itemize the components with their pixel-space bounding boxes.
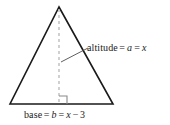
geometry-figure: altitude=a=x base=b=x−3 (0, 0, 170, 125)
base-minus-sign: − (71, 109, 80, 120)
triangle-outline (10, 7, 113, 104)
altitude-label: altitude=a=x (87, 42, 147, 53)
triangle-diagram-canvas (0, 0, 170, 125)
altitude-value: x (141, 42, 147, 53)
altitude-equals-1: = (118, 42, 127, 53)
base-label: base=b=x−3 (24, 109, 85, 120)
altitude-label-name: altitude (87, 42, 118, 53)
base-equals-2: = (57, 109, 66, 120)
base-constant: 3 (80, 109, 85, 120)
right-angle-marker (59, 96, 67, 104)
altitude-leader-line (61, 48, 88, 62)
base-equals-1: = (42, 109, 51, 120)
base-label-name: base (24, 109, 42, 120)
altitude-symbol: a (127, 42, 133, 53)
